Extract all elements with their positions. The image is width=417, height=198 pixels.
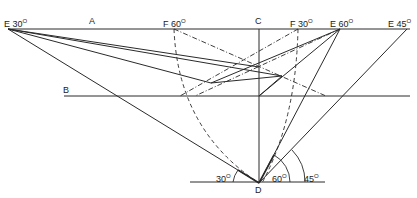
label-c: C xyxy=(255,17,262,26)
label-a: A xyxy=(89,17,95,26)
plan-edge xyxy=(211,76,282,83)
ray-d-30 xyxy=(238,170,259,183)
angle-arc-30 xyxy=(233,170,238,182)
label-angle-30: 30O xyxy=(216,172,231,184)
label-e30: E 30O xyxy=(4,17,27,29)
ray-e30-1 xyxy=(8,29,282,76)
perspective-construction-diagram: E 30O A F 60O C F 30O E 60O E 45O B D 30… xyxy=(0,0,417,198)
label-angle-60: 60O xyxy=(272,172,287,184)
plan-edge xyxy=(259,76,282,96)
ray-e30-d xyxy=(8,29,259,183)
label-angle-45: 45O xyxy=(304,172,319,184)
ray-f30-left xyxy=(180,29,298,96)
ray-e30-2 xyxy=(8,29,259,67)
ray-e30-left xyxy=(8,29,211,83)
label-f30: F 30O xyxy=(290,17,313,29)
label-f60: F 60O xyxy=(163,17,186,29)
arc-f60 xyxy=(174,29,259,183)
diagram-lines xyxy=(0,0,417,198)
label-b: B xyxy=(63,86,69,95)
ray-f60 xyxy=(174,29,326,96)
label-e45: E 45O xyxy=(388,17,411,29)
label-e60: E 60O xyxy=(330,17,353,29)
ray-f30-mid xyxy=(195,29,340,96)
label-d: D xyxy=(255,186,262,195)
